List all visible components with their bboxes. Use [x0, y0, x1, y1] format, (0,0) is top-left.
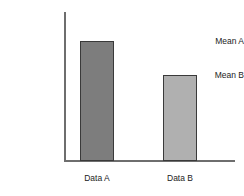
- y-axis-line: [64, 12, 66, 161]
- y-axis-label-mean-b: Mean B: [188, 70, 244, 80]
- x-axis-label-data-a: Data A: [62, 173, 132, 183]
- bar-data-b: [163, 75, 197, 161]
- y-axis-label-mean-a: Mean A: [188, 36, 244, 46]
- bar-data-a: [80, 41, 114, 161]
- bar-chart: Mean A Mean B Data A Data B: [0, 0, 244, 196]
- x-axis-label-data-b: Data B: [145, 173, 215, 183]
